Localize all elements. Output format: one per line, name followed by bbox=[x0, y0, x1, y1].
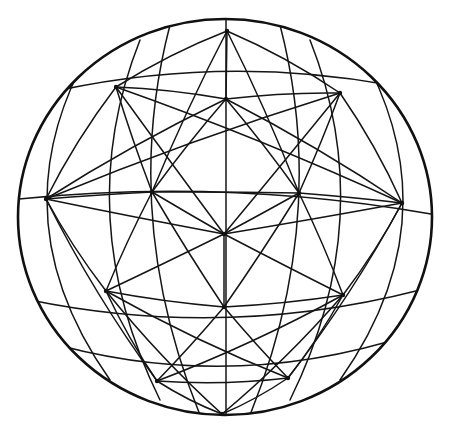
edge-UR-C bbox=[224, 93, 340, 234]
vertex-UR bbox=[338, 91, 342, 95]
triangulation-edges bbox=[46, 31, 402, 414]
vertex-CR bbox=[297, 191, 301, 195]
vertex-LL bbox=[104, 289, 108, 293]
edge-MR-BR bbox=[288, 203, 402, 378]
edge-CL-LL bbox=[106, 192, 152, 291]
edge-BL-BR bbox=[157, 378, 288, 383]
arc-line bbox=[250, 25, 299, 415]
vertex-MR bbox=[400, 201, 404, 205]
arc-line bbox=[151, 25, 200, 415]
vertex-nodes bbox=[44, 29, 404, 416]
vertex-UC bbox=[224, 97, 228, 101]
edge-MR-LR bbox=[343, 203, 402, 295]
vertex-LC bbox=[222, 305, 226, 309]
vertex-ML bbox=[44, 197, 48, 201]
edge-T-UC bbox=[226, 31, 227, 99]
edge-LC-BR bbox=[224, 307, 288, 378]
edge-CR-LR bbox=[299, 193, 343, 295]
arc-line bbox=[60, 71, 390, 90]
geodesic-sphere-svg bbox=[0, 0, 451, 431]
vertex-UL bbox=[114, 85, 118, 89]
edge-UR-MR bbox=[340, 93, 402, 203]
vertex-T bbox=[225, 29, 229, 33]
vertex-BR bbox=[286, 376, 290, 380]
edge-C-LL bbox=[106, 234, 224, 291]
edge-UC-CR bbox=[226, 99, 299, 193]
edge-UL-C bbox=[116, 87, 224, 234]
edge-ML-C bbox=[46, 199, 224, 234]
vertex-LR bbox=[341, 293, 345, 297]
vertex-CL bbox=[150, 190, 154, 194]
latitude-longitude-arcs bbox=[19, 10, 431, 415]
vertex-C bbox=[222, 232, 226, 236]
arc-line bbox=[30, 290, 420, 318]
edge-ML-LL bbox=[46, 199, 106, 291]
edge-MR-C bbox=[224, 203, 402, 234]
edge-LL-B bbox=[106, 291, 222, 414]
edge-C-LR bbox=[224, 234, 343, 295]
sphere-outline bbox=[18, 19, 432, 415]
geodesic-sphere-figure bbox=[0, 0, 451, 431]
arc-line bbox=[19, 191, 431, 214]
vertex-BL bbox=[155, 379, 159, 383]
